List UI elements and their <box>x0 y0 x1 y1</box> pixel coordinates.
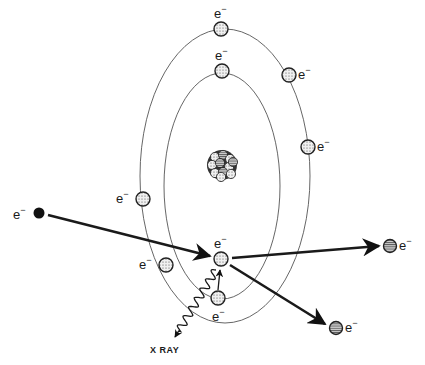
electron-inner-bottom-icon <box>211 291 225 305</box>
incident-electron-icon <box>34 208 45 219</box>
electron-outer-left-icon <box>136 192 150 206</box>
ejected-electron-icon <box>330 322 343 335</box>
xray-label: X RAY <box>150 346 179 355</box>
electron-inner-top-icon <box>215 64 229 78</box>
electron-label-inner-struck: e− <box>214 236 227 250</box>
ejected-electron-label: e− <box>345 320 358 334</box>
electron-outer-upper-right-icon <box>282 68 296 82</box>
electron-outer-right-icon <box>301 140 315 154</box>
electron-outer-lower-left-icon <box>159 258 173 272</box>
electron-label-outer-top: e− <box>214 6 227 20</box>
incident-electron-label: e− <box>13 207 26 221</box>
scattered-path-arrow <box>232 246 379 258</box>
electron-label-inner-top: e− <box>215 48 228 62</box>
scattered-primary-icon <box>384 240 397 253</box>
xray-wave-icon <box>175 270 216 337</box>
atom-diagram: e−e−e−e−e−e−e−e−e−e−e− X RAY <box>0 0 425 365</box>
electron-label-outer-left: e− <box>116 191 129 205</box>
ejected-path-arrow <box>230 265 325 324</box>
electron-label-outer-upper-right: e− <box>298 67 311 81</box>
nucleus-icon <box>207 150 238 182</box>
electron-label-outer-lower-left: e− <box>139 257 152 271</box>
electron-outer-top-icon <box>214 22 228 36</box>
transition-arrow-arrow <box>218 270 220 290</box>
electron-inner-struck-icon <box>214 252 228 266</box>
scattered-primary-label: e− <box>399 238 412 252</box>
incident-path-arrow <box>48 215 210 256</box>
electron-label-outer-right: e− <box>317 139 330 153</box>
electron-label-inner-bottom: e− <box>212 309 225 323</box>
